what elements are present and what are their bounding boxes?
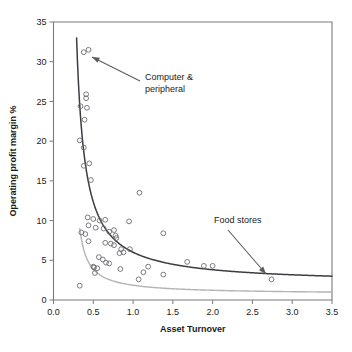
data-point [201, 263, 206, 268]
x-tick-label: 2.5 [246, 307, 259, 317]
data-point [103, 240, 108, 245]
data-point [77, 138, 82, 143]
y-tick-label: 5 [41, 255, 46, 265]
y-tick-label: 25 [36, 97, 46, 107]
annotation-label: Food stores [214, 215, 262, 225]
trend-curves [77, 38, 332, 292]
data-point [146, 264, 151, 269]
data-point [107, 261, 112, 266]
plot-border [54, 22, 333, 300]
data-point [91, 217, 96, 222]
y-tick-label: 20 [36, 136, 46, 146]
plot-svg: 051015202530350.00.51.01.52.02.53.03.5 C… [0, 0, 352, 352]
data-point [103, 217, 108, 222]
annotation-label: Computer & [145, 72, 193, 82]
annotation-label: peripheral [145, 84, 185, 94]
data-point [112, 228, 117, 233]
data-point [127, 219, 132, 224]
x-tick-label: 0.0 [47, 307, 60, 317]
data-point [77, 283, 82, 288]
data-point [87, 161, 92, 166]
data-point [89, 178, 94, 183]
data-point [269, 277, 274, 282]
data-point [82, 117, 87, 122]
data-point [137, 190, 142, 195]
data-point [86, 239, 91, 244]
y-tick-label: 30 [36, 57, 46, 67]
data-point [161, 272, 166, 277]
x-tick-label: 1.0 [127, 307, 140, 317]
y-axis-title: Operating profit margin % [8, 105, 18, 216]
x-tick-label: 0.5 [87, 307, 100, 317]
x-tick-label: 3.5 [326, 307, 339, 317]
data-point [86, 223, 91, 228]
y-tick-label: 10 [36, 216, 46, 226]
trend-curve [80, 229, 332, 293]
annotation-arrow [228, 230, 266, 274]
annotation-arrow [92, 57, 140, 81]
data-point [85, 105, 90, 110]
x-tick-label: 3.0 [286, 307, 299, 317]
data-point [185, 259, 190, 264]
data-point [141, 270, 146, 275]
data-point [93, 225, 98, 230]
data-point [118, 267, 123, 272]
annotations: Computer &peripheralFood stores [92, 57, 266, 274]
data-point [81, 50, 86, 55]
data-point [210, 263, 215, 268]
y-tick-label: 35 [36, 17, 46, 27]
scatter-chart: 051015202530350.00.51.01.52.02.53.03.5 C… [0, 0, 352, 352]
y-tick-label: 0 [41, 295, 46, 305]
data-point [161, 231, 166, 236]
data-point [86, 47, 91, 52]
y-tick-label: 15 [36, 176, 46, 186]
data-point [104, 260, 109, 265]
plot-frame [54, 22, 333, 300]
annotation-arrowhead [92, 57, 100, 63]
x-tick-label: 2.0 [206, 307, 219, 317]
x-tick-label: 1.5 [167, 307, 180, 317]
data-point [85, 215, 90, 220]
data-point [136, 277, 141, 282]
x-axis-title: Asset Turnover [160, 324, 226, 334]
